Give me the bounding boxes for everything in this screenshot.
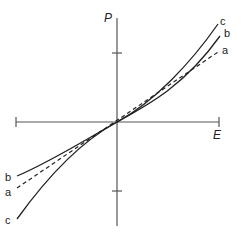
curve-b xyxy=(17,36,220,176)
y-axis-label: P xyxy=(104,11,112,25)
curve-label-c-top: c xyxy=(220,15,226,27)
polarization-field-diagram: P E c b a b a c xyxy=(0,0,241,239)
curve-label-b-top: b xyxy=(224,27,230,39)
curve-label-a-top: a xyxy=(222,44,229,56)
curve-label-b-bottom: b xyxy=(5,171,11,183)
curve-label-c-bottom: c xyxy=(5,214,11,226)
curve-label-a-bottom: a xyxy=(5,186,12,198)
x-axis-label: E xyxy=(213,128,222,142)
